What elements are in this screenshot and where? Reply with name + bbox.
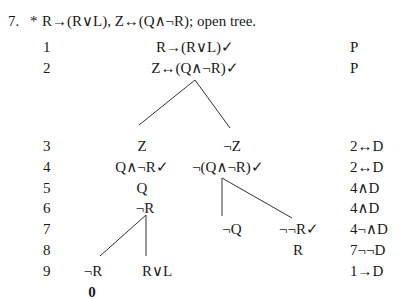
left-formula-4: Q∧¬R✓ <box>115 159 168 175</box>
right-left-formula-7: ¬Q <box>222 221 241 237</box>
right-right-formula-8: R <box>293 242 303 258</box>
trunk-formula-2: Z↔(Q∧¬R)✓ <box>151 60 238 76</box>
left-formula-5: Q <box>137 180 148 196</box>
trunk-formula-1: R→(R∨L)✓ <box>156 39 234 55</box>
closed-branch-mark: 0 <box>88 284 96 299</box>
right-formula-4: ¬(Q∧¬R)✓ <box>192 159 264 175</box>
left-left-formula-9: ¬R <box>84 263 102 279</box>
right-right-formula-7: ¬¬R✓ <box>279 221 319 237</box>
right-formula-3: ¬Z <box>223 138 241 154</box>
left-formula-6: ¬R <box>136 200 154 216</box>
left-right-formula-9: R∨L <box>142 263 172 279</box>
left-formula-3: Z <box>137 138 146 154</box>
